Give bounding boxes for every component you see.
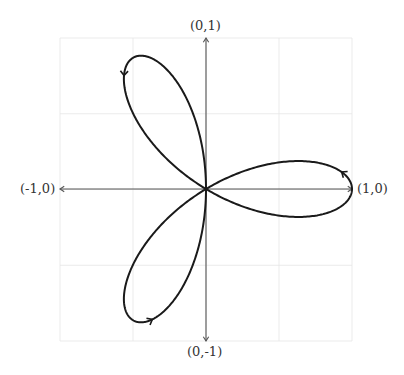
label-bottom: (0,-1) [187, 344, 222, 359]
rose-curve-diagram [0, 0, 404, 375]
label-left: (-1,0) [20, 181, 55, 196]
label-top: (0,1) [190, 18, 221, 33]
curve-direction-arrows [120, 71, 347, 325]
label-right: (1,0) [357, 181, 388, 196]
